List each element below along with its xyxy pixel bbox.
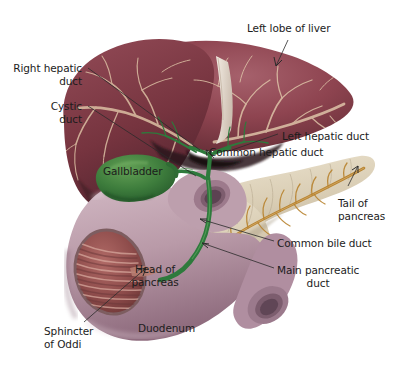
label-main-pancreatic-duct: Main pancreaticduct <box>277 264 359 289</box>
label-head-of-pancreas-line1: Head of <box>135 263 175 275</box>
anatomy-figure: Left lobe of liver Right hepaticduct Cys… <box>0 0 400 368</box>
label-right-hepatic-duct-line2: duct <box>59 75 82 87</box>
label-main-pancreatic-duct-line2: duct <box>307 277 330 289</box>
label-left-lobe-of-liver: Left lobe of liver <box>247 22 330 35</box>
label-cystic-duct-line1: Cystic <box>51 100 82 112</box>
label-tail-of-pancreas-line2: pancreas <box>338 210 385 222</box>
label-right-hepatic-duct-line1: Right hepatic <box>13 62 82 74</box>
label-duodenum: Duodenum <box>138 322 195 335</box>
label-right-hepatic-duct: Right hepaticduct <box>6 62 82 87</box>
label-head-of-pancreas: Head ofpancreas <box>126 263 184 288</box>
label-tail-of-pancreas: Tail ofpancreas <box>338 197 385 222</box>
label-gallbladder: Gallbladder <box>103 165 162 178</box>
label-common-bile-duct: Common bile duct <box>277 237 372 250</box>
label-main-pancreatic-duct-line1: Main pancreatic <box>277 264 359 276</box>
anatomy-illustration <box>0 0 400 368</box>
label-left-hepatic-duct: Left hepatic duct <box>282 130 369 143</box>
label-common-hepatic-duct: Common hepatic duct <box>209 146 323 159</box>
label-sphincter-of-oddi-line1: Sphincter <box>44 325 93 337</box>
label-cystic-duct-line2: duct <box>59 113 82 125</box>
label-sphincter-of-oddi-line2: of Oddi <box>44 338 81 350</box>
label-tail-of-pancreas-line1: Tail of <box>338 197 368 209</box>
label-cystic-duct: Cysticduct <box>6 100 82 125</box>
label-sphincter-of-oddi: Sphincterof Oddi <box>44 325 93 350</box>
label-head-of-pancreas-line2: pancreas <box>131 276 178 288</box>
